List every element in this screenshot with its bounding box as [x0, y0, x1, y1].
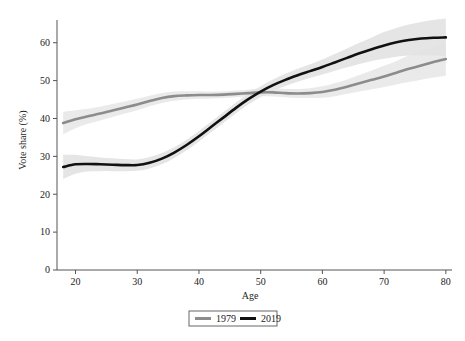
y-tick-label: 0: [45, 264, 50, 275]
y-tick-label: 60: [40, 37, 50, 48]
y-tick-label: 20: [40, 189, 50, 200]
vote-share-by-age-chart: 0102030405060 20304050607080 Age Vote sh…: [0, 0, 465, 341]
chart-legend: 1979 2019: [189, 311, 281, 326]
y-axis-title: Vote share (%): [17, 110, 29, 169]
x-tick-label: 80: [441, 276, 451, 287]
x-tick-label: 50: [256, 276, 266, 287]
legend-label-1979: 1979: [216, 313, 236, 324]
y-tick-label: 10: [40, 226, 50, 237]
x-tick-label: 70: [379, 276, 389, 287]
chart-container: 0102030405060 20304050607080 Age Vote sh…: [0, 0, 465, 341]
y-tick-label: 30: [40, 151, 50, 162]
x-axis-title: Age: [242, 290, 259, 301]
x-tick-label: 30: [132, 276, 142, 287]
y-tick-label: 40: [40, 113, 50, 124]
x-tick-label: 40: [194, 276, 204, 287]
y-tick-label: 50: [40, 75, 50, 86]
x-tick-label: 60: [317, 276, 327, 287]
legend-label-2019: 2019: [261, 313, 281, 324]
x-tick-label: 20: [71, 276, 81, 287]
